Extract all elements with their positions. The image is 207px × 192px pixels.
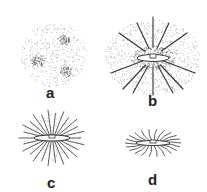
stipple-dot [78,59,79,60]
stipple-dot [64,71,65,72]
stipple-dot [42,65,43,66]
stipple-dot [159,85,160,86]
stipple-dot [143,44,144,45]
stipple-dot [154,45,155,46]
stipple-dot [26,44,27,45]
stipple-dot [26,128,27,129]
stipple-dot [61,79,62,80]
stipple-dot [135,82,136,83]
stipple-dot [122,39,123,40]
stipple-dot [42,83,43,84]
stipple-dot [155,50,156,51]
stipple-dot [23,62,24,63]
stipple-dot [123,78,124,79]
stipple-dot [135,67,136,68]
stipple-dot [121,76,122,77]
stipple-dot [49,131,50,132]
stipple-dot [169,35,170,36]
stipple-dot [32,56,33,57]
stipple-dot [22,49,23,50]
stipple-dot [144,93,145,94]
stipple-dot [183,29,184,30]
stipple-dot [54,67,55,68]
stipple-dot [52,114,53,115]
stipple-dot [169,70,170,71]
stipple-dot [46,50,47,51]
stipple-dot [63,153,64,154]
stipple-dot [135,47,136,48]
stipple-dot [63,37,64,38]
stipple-dot [70,123,71,124]
stipple-dot [52,70,53,71]
stipple-dot [54,68,55,69]
stipple-dot [64,31,65,32]
stipple-dot [54,24,55,25]
stipple-dot [123,44,124,45]
stipple-dot [56,54,57,55]
stipple-dot [70,51,71,52]
stipple-dot [35,62,36,63]
stipple-dot [133,71,134,72]
stipple-dot [133,61,134,62]
stipple-dot [82,48,83,49]
stipple-dot [40,56,41,57]
stipple-dot [116,78,117,79]
stipple-dot [170,79,171,80]
stipple-dot [76,68,77,69]
stipple-dot [84,49,85,50]
stipple-dot [64,61,65,62]
stipple-dot [24,144,25,145]
stipple-dot [46,25,47,26]
stipple-dot [133,56,134,57]
stipple-dot [57,57,58,58]
stipple-dot [63,84,64,85]
stipple-dot [173,86,174,87]
stipple-dot [107,59,108,60]
stipple-dot [64,66,65,67]
stipple-dot [68,48,69,49]
stipple-dot [121,79,122,80]
stipple-dot [132,69,133,70]
stipple-dot [124,59,125,60]
stipple-dot [136,30,137,31]
stipple-dot [50,55,51,56]
stipple-dot [167,48,168,49]
stipple-dot [46,53,47,54]
stipple-dot [49,79,50,80]
stipple-dot [46,61,47,62]
stipple-dot [174,51,175,52]
stipple-dot [184,80,185,81]
stipple-dot [148,53,149,54]
stipple-dot [198,69,199,70]
stipple-dot [73,76,74,77]
stipple-dot [39,61,40,62]
stipple-dot [127,27,128,28]
stipple-dot [76,49,77,50]
stipple-dot [172,41,173,42]
stipple-dot [69,74,70,75]
stipple-dot [66,77,67,78]
stipple-dot [136,51,137,52]
stipple-dot [131,54,132,55]
stipple-dot [146,49,147,50]
stipple-dot [144,30,145,31]
stipple-dot [68,75,69,76]
stipple-dot [150,51,151,52]
stipple-dot [119,72,120,73]
stipple-dot [134,81,135,82]
stipple-dot [42,60,43,61]
stipple-dot [115,36,116,37]
stipple-dot [174,24,175,25]
stipple-dot [64,67,65,68]
stipple-dot [162,62,163,63]
stipple-dot [67,62,68,63]
stipple-dot [73,52,74,53]
stipple-dot [158,75,159,76]
stipple-dot [195,55,196,56]
stipple-dot [69,122,70,123]
stipple-dot [37,65,38,66]
ray-line [111,61,143,73]
stipple-dot [163,65,164,66]
stipple-dot [114,58,115,59]
stipple-dot [112,46,113,47]
